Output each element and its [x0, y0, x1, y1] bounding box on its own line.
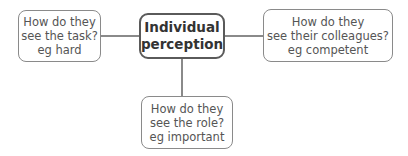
node-task-line-3: eg hard [37, 43, 81, 57]
node-center-line-1: Individual [144, 19, 219, 36]
node-center-line-2: perception [141, 36, 223, 53]
connector-right [225, 35, 263, 37]
node-colleagues-line-2: see their colleagues? [267, 29, 389, 43]
connector-left [101, 35, 139, 37]
node-role-line-1: How do they [151, 102, 223, 116]
node-role: How do they see the role? eg important [141, 96, 233, 149]
connector-bottom [181, 59, 183, 96]
node-task-line-2: see the task? [21, 29, 98, 43]
node-center: Individual perception [139, 13, 225, 59]
node-role-line-3: eg important [150, 130, 225, 144]
node-task-line-1: How do they [23, 15, 95, 29]
node-colleagues-line-1: How do they [292, 15, 364, 29]
node-role-line-2: see the role? [150, 116, 224, 130]
node-colleagues: How do they see their colleagues? eg com… [263, 9, 393, 62]
node-task: How do they see the task? eg hard [18, 10, 101, 62]
node-colleagues-line-3: eg competent [288, 43, 368, 57]
